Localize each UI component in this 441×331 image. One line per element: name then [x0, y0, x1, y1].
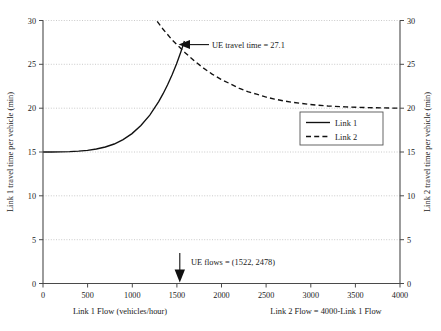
series-line-link-2 [157, 21, 400, 108]
left-axis-title: Link 1 travel time per vehicle (min) [6, 92, 15, 212]
right-ytick-label: 10 [407, 192, 415, 201]
bottom-axis-ticks [43, 284, 400, 288]
right-ytick-label: 5 [407, 236, 411, 245]
equilibrium-chart-figure: 30 25 20 15 10 5 0 30 25 20 15 10 5 0 0 … [0, 0, 441, 331]
chart-svg: 30 25 20 15 10 5 0 30 25 20 15 10 5 0 0 … [0, 0, 441, 331]
xtick-label: 3000 [303, 291, 319, 300]
left-ytick-label: 25 [28, 60, 36, 69]
right-ytick-label: 15 [407, 148, 415, 157]
left-ytick-label: 30 [28, 17, 36, 26]
xtick-label: 1000 [124, 291, 140, 300]
ue-flows-arrow-icon [175, 270, 185, 283]
left-axis-ticks [39, 21, 43, 284]
left-ytick-label: 10 [28, 192, 36, 201]
legend-label-link-1: Link 1 [335, 119, 357, 128]
right-axis-ticks [400, 21, 404, 284]
left-ytick-label: 20 [28, 104, 36, 113]
right-axis-title: Link 2 travel time per vehicle (min) [423, 92, 432, 212]
ue-flows-label: UE flows = (1522, 2478) [191, 258, 275, 267]
xtick-label: 1500 [169, 291, 185, 300]
xtick-label: 3500 [347, 291, 363, 300]
ue-travel-time-label: UE travel time = 27.1 [212, 41, 285, 50]
annotation-ue-travel-time: UE travel time = 27.1 [179, 40, 285, 50]
left-axis-tick-labels: 30 25 20 15 10 5 0 [28, 17, 36, 289]
xtick-label: 4000 [392, 291, 408, 300]
xtick-label: 0 [41, 291, 45, 300]
left-ytick-label: 15 [28, 148, 36, 157]
xtick-label: 2000 [213, 291, 229, 300]
chart-legend: Link 1 Link 2 [300, 112, 383, 145]
bottom-axis-title-secondary: Link 2 Flow = 4000-Link 1 Flow [270, 307, 382, 316]
right-ytick-label: 0 [407, 280, 411, 289]
bottom-axis-tick-labels: 0 500 1000 1500 2000 2500 3000 3500 4000 [41, 291, 408, 300]
left-ytick-label: 5 [32, 236, 36, 245]
xtick-label: 2500 [258, 291, 274, 300]
right-axis-tick-labels: 30 25 20 15 10 5 0 [407, 17, 415, 289]
annotation-ue-flows: UE flows = (1522, 2478) [175, 253, 276, 283]
axes [43, 21, 400, 284]
series-line-link-1 [43, 41, 184, 152]
right-ytick-label: 30 [407, 17, 415, 26]
right-ytick-label: 25 [407, 60, 415, 69]
left-ytick-label: 0 [32, 280, 36, 289]
legend-label-link-2: Link 2 [335, 133, 357, 142]
xtick-label: 500 [81, 291, 93, 300]
right-ytick-label: 20 [407, 104, 415, 113]
bottom-axis-title-primary: Link 1 Flow (vehicles/hour) [73, 307, 167, 316]
